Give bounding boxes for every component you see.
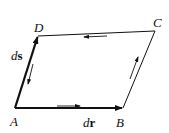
circulation-arrow-cd — [84, 36, 107, 37]
edge-b-c — [123, 31, 155, 108]
vertex-label-c: C — [153, 15, 162, 30]
vertex-label-b: B — [116, 115, 124, 130]
ds-s: s — [18, 48, 23, 63]
vertex-label-d: D — [33, 20, 44, 35]
edge-c-d — [38, 31, 155, 36]
dr-r: r — [90, 115, 96, 130]
vector-label-ds: ds — [11, 48, 23, 63]
vertex-label-a: A — [9, 114, 18, 129]
parallelogram-diagram: D C A B ds dr — [0, 0, 169, 133]
vector-label-dr: dr — [83, 115, 96, 130]
